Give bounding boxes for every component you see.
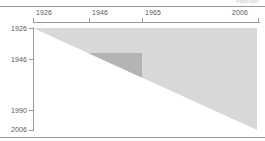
x-axis-label-1926: 1926 [36,9,52,17]
y-axis-label-1926: 1926 [11,25,27,33]
x-axis-line [33,22,260,23]
top-rule-divider [0,6,265,7]
y-axis-label-1990: 1990 [11,107,27,115]
x-axis-tick-2006 [258,18,259,23]
bottom-rule-divider [0,137,265,138]
covered-period-triangle [33,28,257,130]
highlighted-subperiod [89,53,142,110]
y-axis-label-1946: 1946 [11,56,27,64]
running-head-text: Appendix [236,0,259,4]
x-axis-tick-1926 [33,18,34,23]
plot-area [33,28,257,130]
y-axis-label-2006: 2006 [11,126,27,134]
x-axis-tick-1946 [89,18,90,23]
y-axis-tick-2006 [29,130,34,131]
plot-shapes [33,28,257,130]
lexis-diagram-figure: Appendix 1926 1946 1965 2006 1926 1946 1… [0,0,265,141]
x-axis-label-1946: 1946 [92,9,108,17]
x-axis-label-2006: 2006 [232,9,248,17]
x-axis-tick-1965 [142,18,143,23]
x-axis-label-1965: 1965 [145,9,161,17]
